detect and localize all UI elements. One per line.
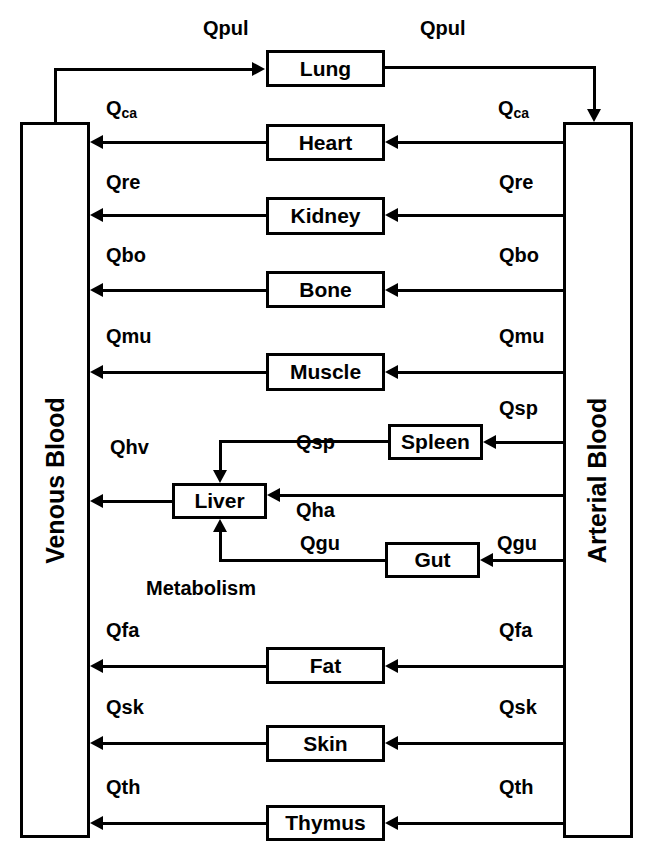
flow-label-qha: Qha (296, 500, 335, 520)
organ-box-liver: Liver (172, 483, 267, 519)
flow-label-qbo-left-text: Qbo (106, 244, 146, 266)
flow-label-qca-left-sub: ca (122, 105, 138, 121)
arrowhead-qpul-into-arterial (587, 109, 601, 122)
arrowhead-qca-into-heart (385, 135, 398, 149)
flow-label-qgu-right-text: Qgu (497, 532, 537, 554)
flow-label-qfa-left-text: Qfa (106, 619, 139, 641)
arrowhead-qmu-into-muscle (385, 365, 398, 379)
flow-label-qfa-right-text: Qfa (499, 619, 532, 641)
flow-label-qfa-right: Qfa (499, 620, 532, 640)
flow-label-qpul-right-text: Qpul (420, 17, 466, 39)
arrowhead-qgu-into-liver (213, 519, 227, 532)
flow-label-qpul-right: Qpul (420, 18, 466, 38)
arrowhead-qth-into-venous (90, 816, 103, 830)
arrowhead-qbo-into-bone (385, 283, 398, 297)
organ-box-heart: Heart (266, 124, 385, 161)
flow-line-qpul-arterial-drop (593, 66, 596, 109)
flow-label-qca-right-sub: ca (514, 105, 530, 121)
flow-label-qpul-left: Qpul (203, 18, 249, 38)
flow-label-qmu-left-text: Qmu (106, 325, 152, 347)
arrowhead-qre-into-kidney (385, 208, 398, 222)
organ-box-thymus: Thymus (266, 805, 385, 841)
arrowhead-qpul-into-lung (252, 62, 265, 76)
flow-label-qca-right: Qca (498, 98, 529, 118)
flow-label-qre-left-text: Qre (106, 171, 140, 193)
flow-label-qsk-left: Qsk (106, 697, 144, 717)
flow-line-qmu-arterial-to-muscle (398, 371, 563, 374)
flow-label-qca-left: Qca (106, 98, 137, 118)
flow-label-qgu-left-text: Qgu (300, 532, 340, 554)
flow-label-qsp-right-text: Qsp (499, 397, 538, 419)
flow-line-qpul-to-lung (54, 68, 252, 71)
flow-label-qca-left-base: Q (106, 97, 122, 119)
flow-label-qsk-right-text: Qsk (499, 696, 537, 718)
organ-box-kidney: Kidney (266, 197, 385, 235)
flow-line-qsp-arterial-to-spleen (496, 441, 563, 444)
arrowhead-qsp-into-liver (213, 470, 227, 483)
organ-box-lung: Lung (266, 50, 385, 87)
organ-box-muscle: Muscle (266, 353, 385, 391)
arrowhead-qgu-into-gut (480, 553, 493, 567)
flow-line-qfa-arterial-to-fat (398, 665, 563, 668)
flow-label-qth-right-text: Qth (499, 776, 533, 798)
flow-label-qbo-right-text: Qbo (499, 244, 539, 266)
flow-label-qsk-left-text: Qsk (106, 696, 144, 718)
arterial-blood-compartment: Arterial Blood (563, 122, 633, 838)
flow-line-qbo-bone-to-venous (103, 289, 266, 292)
flow-line-qsk-arterial-to-skin (398, 742, 563, 745)
flow-label-qmu-right-text: Qmu (499, 325, 545, 347)
arrowhead-qha-into-liver (267, 488, 280, 502)
flow-line-qre-arterial-to-kidney (398, 214, 563, 217)
flow-label-qsk-right: Qsk (499, 697, 537, 717)
flow-line-qfa-fat-to-venous (103, 665, 266, 668)
flow-line-qpul-venous-riser (54, 68, 57, 125)
arrowhead-qth-into-thymus (385, 816, 398, 830)
arrowhead-qmu-into-venous (90, 365, 103, 379)
metabolism-label: Metabolism (146, 577, 256, 600)
flow-label-qbo-left: Qbo (106, 245, 146, 265)
flow-line-qth-thymus-to-venous (103, 822, 266, 825)
flow-label-qre-right-text: Qre (499, 171, 533, 193)
flow-label-qre-left: Qre (106, 172, 140, 192)
flow-line-qpul-from-lung (385, 66, 596, 69)
flow-label-qsp-left: Qsp (296, 432, 335, 452)
flow-label-qth-left-text: Qth (106, 776, 140, 798)
flow-label-qfa-left: Qfa (106, 620, 139, 640)
flow-label-qca-right-base: Q (498, 97, 514, 119)
arrowhead-qfa-into-venous (90, 659, 103, 673)
flow-label-qsp-right: Qsp (499, 398, 538, 418)
arrowhead-qhv-into-venous (90, 494, 103, 508)
flow-line-qsk-skin-to-venous (103, 742, 266, 745)
flow-label-qre-right: Qre (499, 172, 533, 192)
arrowhead-qsk-into-skin (385, 736, 398, 750)
arrowhead-qsk-into-venous (90, 736, 103, 750)
flow-label-qth-right: Qth (499, 777, 533, 797)
flow-label-qhv: Qhv (110, 437, 149, 457)
flow-label-qhv-text: Qhv (110, 436, 149, 458)
arrowhead-qbo-into-venous (90, 283, 103, 297)
organ-box-fat: Fat (266, 647, 385, 684)
flow-line-qbo-arterial-to-bone (398, 289, 563, 292)
arrowhead-qre-into-venous (90, 208, 103, 222)
flow-line-qmu-muscle-to-venous (103, 371, 266, 374)
flow-line-qgu-gut-to-liver (219, 559, 385, 562)
arterial-blood-label: Arterial Blood (584, 397, 613, 562)
organ-box-bone: Bone (266, 271, 385, 308)
flow-label-qmu-left: Qmu (106, 326, 152, 346)
arrowhead-qca-into-venous (90, 135, 103, 149)
pbpk-diagram: Venous Blood Arterial Blood Lung Heart K… (0, 0, 648, 860)
flow-line-qgu-arterial-to-gut (493, 559, 563, 562)
flow-label-qha-text: Qha (296, 499, 335, 521)
flow-label-qgu-left: Qgu (300, 533, 340, 553)
flow-line-qha-arterial-to-liver (280, 494, 563, 497)
flow-label-qpul-left-text: Qpul (203, 17, 249, 39)
flow-label-qth-left: Qth (106, 777, 140, 797)
flow-label-qbo-right: Qbo (499, 245, 539, 265)
flow-line-qhv-liver-to-venous (103, 500, 172, 503)
organ-box-gut: Gut (385, 542, 480, 578)
flow-line-qsp-drop-to-liver (219, 440, 222, 470)
flow-line-qth-arterial-to-thymus (398, 822, 563, 825)
organ-box-skin: Skin (266, 725, 385, 762)
flow-line-qca-heart-to-venous (103, 141, 266, 144)
arrowhead-qsp-into-spleen (483, 435, 496, 449)
